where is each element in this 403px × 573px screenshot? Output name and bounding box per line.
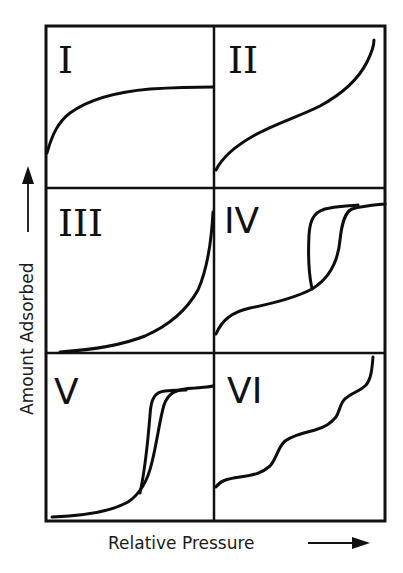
- isotherm-curve: [47, 87, 213, 153]
- x-axis-label: Relative Pressure: [108, 533, 255, 553]
- panel-label-III: III: [58, 201, 103, 245]
- adsorption-isotherm-diagram: I II III IV V VI Amount Adsorbed Relativ…: [0, 0, 403, 573]
- y-axis-arrow-icon: [22, 166, 34, 184]
- panel-label-VI: VI: [227, 370, 262, 411]
- panel-label-I: I: [58, 38, 73, 82]
- panel-label-V: V: [54, 371, 79, 412]
- panel-label-IV: IV: [224, 200, 260, 241]
- curve-type-I: [47, 87, 213, 153]
- desorption-branch: [309, 205, 358, 289]
- y-axis-label: Amount Adsorbed: [17, 262, 37, 415]
- x-axis-arrow-icon: [352, 537, 370, 549]
- panel-label-II: II: [228, 38, 258, 82]
